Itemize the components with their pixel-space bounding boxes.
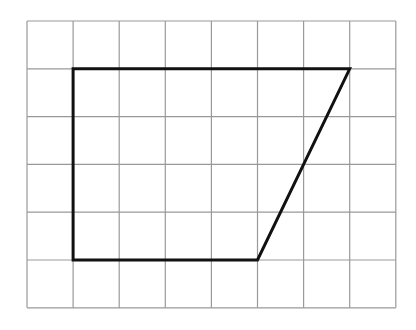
grid-lines — [27, 21, 396, 308]
grid-diagram — [0, 0, 416, 330]
